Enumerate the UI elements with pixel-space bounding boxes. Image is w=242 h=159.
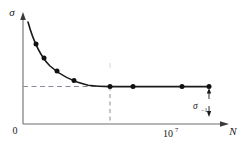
data-point [108,84,113,89]
x-axis-label: N [228,125,237,137]
sn-curve-figure: σ N 0 10 7 [0,0,242,159]
data-point [72,78,77,83]
fatigue-limit-symbol: σ [193,101,198,111]
data-point [55,69,60,74]
data-point [131,84,136,89]
y-axis-label: σ [9,6,15,18]
data-point [34,42,39,47]
data-point [42,56,47,61]
x-tick-base: 10 [163,128,173,139]
origin-label: 0 [13,125,18,136]
chart-background [0,0,242,159]
fatigue-limit-subscript: −1 [201,107,207,113]
sn-curve-chart: σ N 0 10 7 [0,0,242,159]
data-point [180,84,185,89]
